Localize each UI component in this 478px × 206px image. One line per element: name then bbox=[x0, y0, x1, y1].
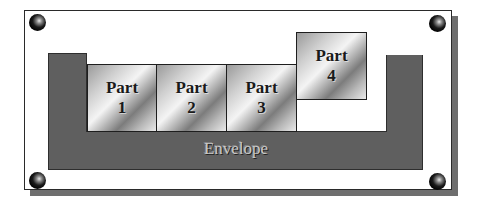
envelope-label: Envelope bbox=[86, 139, 386, 159]
part-4-title: Part bbox=[315, 46, 347, 66]
screw-top-left-icon bbox=[29, 14, 46, 31]
part-3: Part 3 bbox=[226, 64, 297, 132]
envelope-right-column-top bbox=[386, 53, 423, 55]
part-2: Part 2 bbox=[156, 64, 227, 132]
screw-top-right-icon bbox=[429, 15, 446, 32]
part-1-title: Part bbox=[106, 78, 138, 98]
part-4: Part 4 bbox=[296, 32, 367, 100]
screw-bottom-left-icon bbox=[29, 172, 46, 189]
part-1: Part 1 bbox=[87, 64, 157, 132]
screw-bottom-right-icon bbox=[429, 173, 446, 190]
part-3-title: Part bbox=[245, 78, 277, 98]
part-4-number: 4 bbox=[327, 66, 336, 86]
part-3-number: 3 bbox=[257, 98, 266, 118]
part-2-number: 2 bbox=[187, 98, 196, 118]
part-1-number: 1 bbox=[118, 98, 127, 118]
part-2-title: Part bbox=[175, 78, 207, 98]
